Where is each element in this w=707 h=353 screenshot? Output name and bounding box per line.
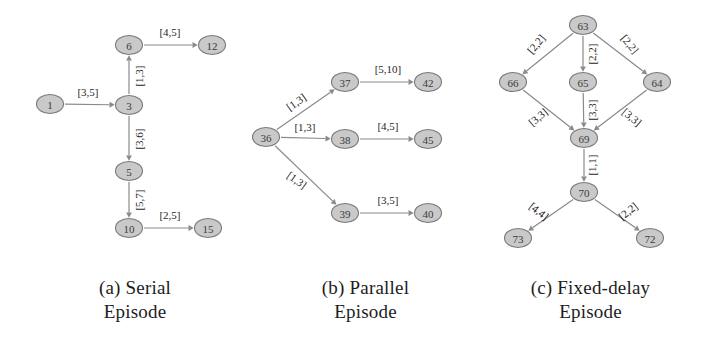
node-10: 10 <box>116 219 143 238</box>
node-label-64: 64 <box>652 77 664 89</box>
edge-label-n63-to-n65: [2,2] <box>586 43 598 64</box>
node-40: 40 <box>415 204 442 223</box>
edge-label-n5-to-n10: [5,7] <box>133 189 145 210</box>
node-label-69: 69 <box>579 133 591 145</box>
node-label-66: 66 <box>508 77 520 89</box>
node-label-40: 40 <box>423 208 435 220</box>
node-45: 45 <box>415 130 442 149</box>
arrowhead-n36-to-n37 <box>329 89 335 94</box>
node-1: 1 <box>37 95 64 114</box>
arrowhead-n64-to-n69 <box>594 125 600 130</box>
node-label-63: 63 <box>578 20 590 32</box>
arrowhead-n5-to-n10 <box>126 213 132 218</box>
caption-parallel-episode: (b) Parallel Episode <box>268 276 463 325</box>
edge-label-n36-to-n39: [1,3] <box>285 169 309 191</box>
edge-label-n10-to-n15: [2,5] <box>159 209 180 221</box>
node-label-12: 12 <box>207 40 218 52</box>
edge-label-n38-to-n45: [4,5] <box>377 120 398 132</box>
edge-label-n1-to-n3: [3,5] <box>77 86 98 98</box>
fixed-delay-episode-diagram: [2,2][2,2][2,2][3,3][3,3][3,3][1,1][4,4]… <box>465 0 707 275</box>
edge-label-n70-to-n73: [4,4] <box>527 200 551 222</box>
node-66: 66 <box>500 73 527 92</box>
arrowhead-n70-to-n73 <box>528 225 534 230</box>
edge-label-n6-to-n12: [4,5] <box>159 26 180 38</box>
edge-label-n65-to-n69: [3,3] <box>586 99 598 120</box>
node-label-70: 70 <box>579 187 591 199</box>
edge-label-n37-to-n42: [5,10] <box>375 63 402 75</box>
arrowhead-n6-to-n12 <box>193 42 198 48</box>
node-64: 64 <box>644 73 671 92</box>
node-72: 72 <box>637 229 664 248</box>
node-38: 38 <box>332 130 359 149</box>
node-label-42: 42 <box>423 77 434 89</box>
node-label-73: 73 <box>513 233 525 245</box>
arrowhead-n1-to-n3 <box>109 102 114 108</box>
edge-label-n36-to-n38: [1,3] <box>294 121 315 133</box>
edge-n36-to-n38 <box>281 137 326 138</box>
edge-label-n64-to-n69: [3,3] <box>620 106 644 129</box>
arrowhead-n38-to-n45 <box>409 136 414 142</box>
serial-episode-diagram: [3,5][1,3][4,5][3,6][5,7][2,5]1612351015 <box>0 0 250 275</box>
arrowhead-n37-to-n42 <box>409 79 414 85</box>
arrowhead-n65-to-n69 <box>581 122 587 127</box>
node-37: 37 <box>332 73 359 92</box>
arrowhead-n3-to-n6 <box>126 55 132 60</box>
edge-label-n3-to-n5: [3,6] <box>133 128 145 149</box>
arrowhead-n36-to-n38 <box>325 136 330 142</box>
edge-n65-to-n69 <box>583 93 584 123</box>
node-label-36: 36 <box>261 132 273 144</box>
node-label-37: 37 <box>340 77 352 89</box>
node-label-65: 65 <box>578 77 590 89</box>
node-36: 36 <box>253 128 280 147</box>
node-73: 73 <box>505 229 532 248</box>
node-label-15: 15 <box>203 223 215 235</box>
edge-label-n69-to-n70: [1,1] <box>586 154 598 175</box>
edge-n1-to-n3 <box>65 104 110 105</box>
edge-label-n39-to-n40: [3,5] <box>377 194 398 206</box>
arrowhead-n63-to-n65 <box>580 67 586 72</box>
arrowhead-n69-to-n70 <box>581 177 587 182</box>
arrowhead-n39-to-n40 <box>409 210 414 216</box>
node-65: 65 <box>570 73 597 92</box>
arrowhead-n63-to-n64 <box>641 69 647 74</box>
node-42: 42 <box>415 73 442 92</box>
node-label-6: 6 <box>126 40 132 52</box>
edge-n36-to-n39 <box>275 146 333 201</box>
episode-types-figure: [3,5][1,3][4,5][3,6][5,7][2,5]1612351015… <box>0 0 707 353</box>
node-label-1: 1 <box>47 99 53 111</box>
caption-fixed-delay-episode: (c) Fixed-delay Episode <box>478 276 703 325</box>
node-12: 12 <box>199 36 226 55</box>
caption-serial-episode: (a) Serial Episode <box>30 276 240 325</box>
arrowhead-n3-to-n5 <box>126 156 132 161</box>
edge-label-n63-to-n66: [2,2] <box>525 32 548 56</box>
node-6: 6 <box>116 36 143 55</box>
node-3: 3 <box>116 96 143 115</box>
node-label-38: 38 <box>340 134 352 146</box>
node-5: 5 <box>116 162 143 181</box>
arrowhead-n70-to-n72 <box>634 225 640 230</box>
node-63: 63 <box>570 16 597 35</box>
edge-label-n3-to-n6: [1,3] <box>133 65 145 86</box>
node-label-10: 10 <box>124 223 136 235</box>
node-15: 15 <box>195 219 222 238</box>
node-70: 70 <box>571 183 598 202</box>
node-label-72: 72 <box>645 233 656 245</box>
parallel-episode-diagram: [1,3][5,10][1,3][4,5][1,3][3,5]363742384… <box>250 0 465 275</box>
edge-label-n70-to-n72: [2,2] <box>616 200 640 222</box>
node-label-39: 39 <box>340 208 352 220</box>
node-label-45: 45 <box>423 134 435 146</box>
node-39: 39 <box>332 204 359 223</box>
node-label-5: 5 <box>126 166 132 178</box>
arrowhead-n10-to-n15 <box>189 225 194 231</box>
edge-label-n63-to-n64: [2,2] <box>619 32 642 56</box>
node-69: 69 <box>571 129 598 148</box>
node-label-3: 3 <box>126 100 132 112</box>
